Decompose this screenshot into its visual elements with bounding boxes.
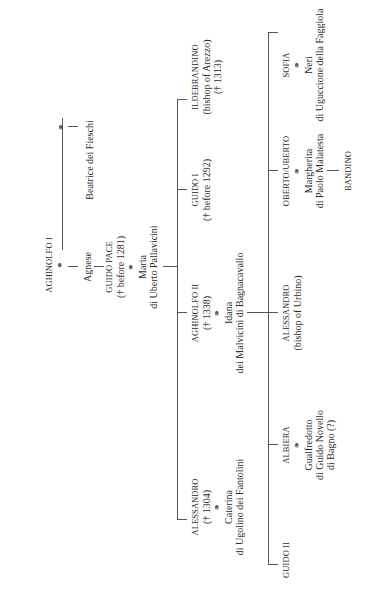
person-guido-i: GUIDO I († before 1292) [190, 159, 212, 221]
marriage-line [62, 118, 63, 250]
branch-line [177, 312, 187, 313]
spouse-beatrice: Beatrice dei Fieschi [84, 120, 95, 199]
branch-line [177, 519, 187, 520]
descent-line [68, 126, 78, 127]
family-tree-diagram: AGHINOLFO I ⚭ ⚭ Beatrice dei Fieschi Agn… [0, 0, 391, 595]
branch-line [268, 170, 278, 171]
descent-line [327, 170, 339, 171]
descent-line [247, 312, 268, 313]
person-alessandro: ALESSANDRO († 1304) ⚭ Caterina di Ugolin… [190, 459, 245, 555]
branch-line [268, 312, 278, 313]
descent-line [163, 266, 177, 267]
branch-line [177, 189, 187, 190]
person-oberto-uberto: OBERTO/UBERTO ⚭ Margherita di Paolo Mala… [281, 134, 325, 208]
branch-line [268, 564, 278, 565]
marriage-symbol-2: ⚭ [56, 123, 67, 131]
descent-line [94, 266, 104, 267]
marriage-symbol: ⚭ [55, 237, 66, 293]
person-aghinolfo-ii: AGHINOLFO II († 1338) ⚭ Idana dei Malvic… [190, 253, 245, 374]
branch-line [268, 444, 278, 445]
person-guido-pace: GUIDO PACE († before 1281) ⚭ Maria di Ub… [104, 225, 159, 308]
person-ildebrandino: ILDEBRANDINO (bishop of Arezzo) († 1313) [190, 40, 223, 115]
person-guido-ii: GUIDO II [281, 542, 292, 578]
person-alessandro-bishop: ALESSANDRO (bishop of Urbino) [281, 276, 303, 351]
person-bandino: BANDINO [343, 151, 354, 191]
person-name: AGHINOLFO I [44, 237, 55, 293]
descent-line [68, 266, 78, 267]
branch-line [268, 32, 278, 33]
sibling-line [268, 32, 269, 565]
branch-line [177, 99, 187, 100]
spouse-agnese: Agnese [82, 252, 93, 282]
person-sofia: SOFIA ⚭ Neri di Uguccione della Faggiola [281, 8, 325, 121]
person-albiera: ALBIERA ⚭ Gualfredotto di Guido Novello … [281, 410, 336, 480]
sibling-line [177, 99, 178, 520]
